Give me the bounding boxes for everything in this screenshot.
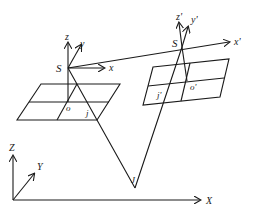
- baseline-x-prime-axis: [68, 42, 229, 68]
- label-left-image-point: j: [85, 108, 89, 118]
- label-world-z: Z: [9, 142, 15, 153]
- label-left-y: y: [79, 38, 85, 49]
- label-world-x: X: [205, 195, 213, 206]
- label-left-z: z: [64, 31, 69, 42]
- right-image-plane: [143, 59, 229, 105]
- label-right-z: z': [175, 11, 183, 22]
- left-camera-axes: [68, 43, 104, 102]
- stereo-geometry-diagram: z y x S o j z' y' x' S o' j' J Z Y X: [0, 0, 254, 213]
- label-world-y: Y: [37, 161, 44, 172]
- label-right-image-point: j': [156, 90, 163, 100]
- label-left-principal-point: o: [66, 103, 71, 113]
- label-right-center: S: [172, 37, 178, 49]
- world-y-axis: [13, 174, 34, 200]
- diagram-svg: z y x S o j z' y' x' S o' j' J Z Y X: [0, 0, 254, 213]
- right-y-axis: [182, 27, 188, 47]
- label-object-point: J: [131, 175, 136, 185]
- label-right-x: x': [233, 36, 241, 47]
- label-left-center: S: [56, 62, 62, 74]
- right-z-axis: [179, 23, 182, 47]
- label-left-x: x: [108, 62, 114, 73]
- label-right-y: y': [190, 14, 198, 25]
- label-right-principal-point: o': [190, 82, 198, 92]
